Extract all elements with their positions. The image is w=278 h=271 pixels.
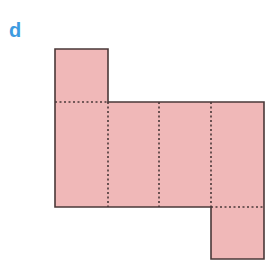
face-bottom (211, 207, 264, 259)
face-middle-row (55, 102, 264, 207)
net-faces (55, 49, 264, 259)
cuboid-net-diagram (0, 0, 278, 271)
face-top (55, 49, 108, 102)
